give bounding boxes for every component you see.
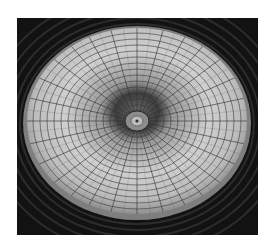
dome-illustration	[17, 18, 258, 235]
central-oculus	[125, 111, 149, 131]
dome-photo	[17, 18, 258, 235]
